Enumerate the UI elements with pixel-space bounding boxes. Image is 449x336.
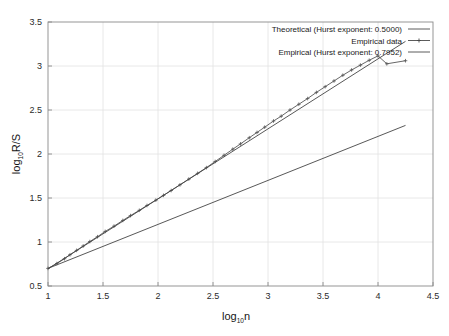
x-tick-label: 4.5 bbox=[427, 291, 440, 301]
y-tick-label: 2.5 bbox=[29, 105, 42, 115]
y-axis-label-main: log bbox=[10, 159, 22, 174]
x-tick-label: 3 bbox=[265, 291, 270, 301]
x-axis-label-main: log bbox=[222, 310, 237, 322]
svg-text:log10n: log10n bbox=[222, 310, 250, 324]
x-tick-label: 4 bbox=[375, 291, 380, 301]
x-tick-label: 1.5 bbox=[97, 291, 110, 301]
x-tick-label: 1 bbox=[45, 291, 50, 301]
y-tick-label: 2 bbox=[37, 149, 42, 159]
y-tick-label: 1.5 bbox=[29, 193, 42, 203]
legend-label: Empirical (Hurst exponent: 0.7952) bbox=[278, 48, 402, 57]
y-tick-label: 3 bbox=[37, 61, 42, 71]
x-tick-label: 2 bbox=[155, 291, 160, 301]
x-axis-label-tail: n bbox=[244, 310, 250, 322]
x-tick-label: 3.5 bbox=[317, 291, 330, 301]
x-axis-label: log10n bbox=[222, 310, 250, 324]
y-tick-label: 0.5 bbox=[29, 281, 42, 291]
y-tick-label: 1 bbox=[37, 237, 42, 247]
y-axis-label-tail: R/S bbox=[10, 134, 22, 152]
y-tick-label: 3.5 bbox=[29, 17, 42, 27]
legend-label: Theoretical (Hurst exponent: 0.5000) bbox=[272, 25, 403, 34]
legend-label: Empirical data bbox=[351, 37, 402, 46]
x-tick-label: 2.5 bbox=[207, 291, 220, 301]
chart-figure: 11.522.533.544.5 0.511.522.533.5 Theoret… bbox=[0, 0, 449, 336]
rescaled-range-plot: 11.522.533.544.5 0.511.522.533.5 Theoret… bbox=[0, 0, 449, 336]
